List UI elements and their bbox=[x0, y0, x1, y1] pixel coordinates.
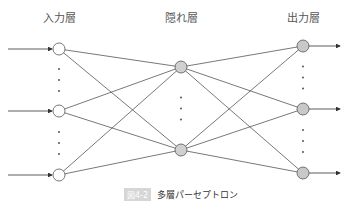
hidden-node bbox=[175, 61, 187, 73]
ellipsis-dot bbox=[58, 79, 60, 81]
ellipsis-dot bbox=[302, 151, 304, 153]
connection-line bbox=[181, 67, 303, 173]
ellipsis-dot bbox=[302, 140, 304, 142]
connection-line bbox=[59, 67, 181, 175]
ellipsis-dot bbox=[302, 88, 304, 90]
connection-line bbox=[181, 67, 303, 109]
connection-line bbox=[59, 111, 181, 150]
caption-text: 多層パーセプトロン bbox=[157, 188, 238, 201]
connection-line bbox=[59, 150, 181, 175]
ellipsis-dot bbox=[180, 108, 182, 110]
ellipsis-dot bbox=[302, 129, 304, 131]
ellipsis-dot bbox=[180, 97, 182, 99]
output-node bbox=[297, 40, 309, 52]
ellipsis-dot bbox=[58, 68, 60, 70]
input-node bbox=[53, 169, 65, 181]
figure-number: 図4-2 bbox=[124, 188, 151, 201]
connection-line bbox=[181, 109, 303, 150]
connection-line bbox=[59, 67, 181, 111]
connection-line bbox=[181, 150, 303, 173]
network-diagram bbox=[0, 0, 362, 211]
output-node bbox=[297, 103, 309, 115]
ellipsis-dot bbox=[58, 153, 60, 155]
ellipsis-dot bbox=[58, 142, 60, 144]
output-node bbox=[297, 167, 309, 179]
ellipsis-dot bbox=[58, 131, 60, 133]
hidden-node bbox=[175, 144, 187, 156]
connection-line bbox=[181, 46, 303, 150]
input-node bbox=[53, 43, 65, 55]
input-node bbox=[53, 105, 65, 117]
neurons bbox=[53, 40, 309, 181]
ellipsis-dot bbox=[180, 119, 182, 121]
ellipsis-dot bbox=[302, 77, 304, 79]
ellipsis-dot bbox=[302, 66, 304, 68]
ellipsis-dot bbox=[58, 90, 60, 92]
figure-caption: 図4-2 多層パーセプトロン bbox=[124, 188, 238, 201]
connection-line bbox=[181, 46, 303, 67]
